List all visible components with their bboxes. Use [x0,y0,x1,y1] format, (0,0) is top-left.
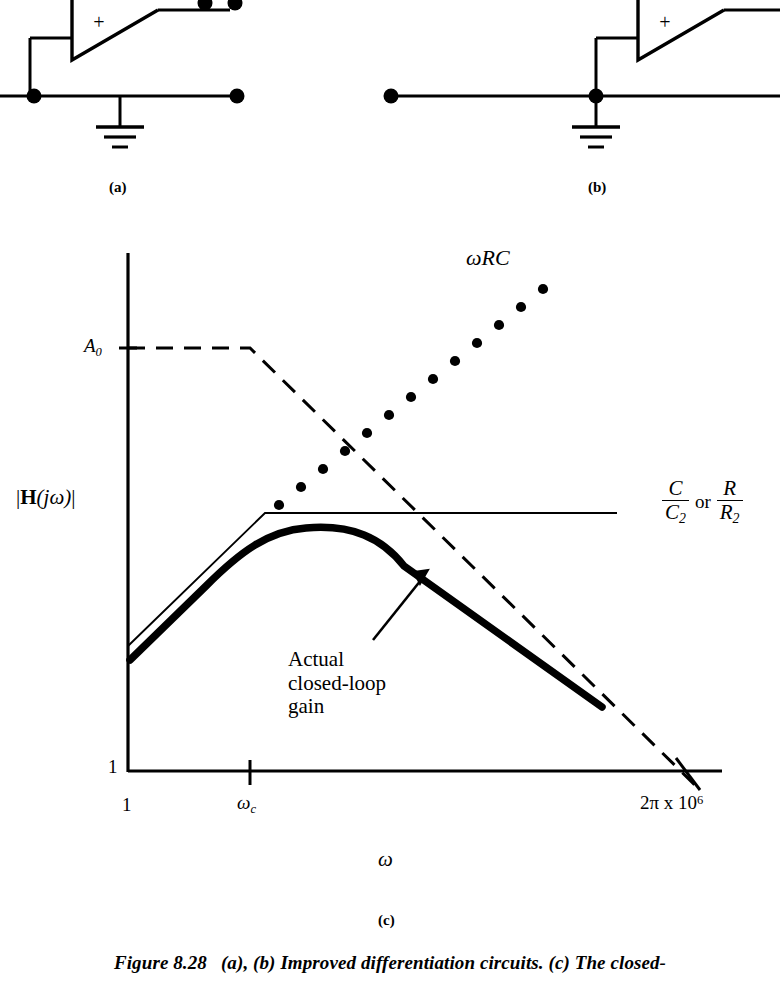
annotation-line-2: closed-loop [288,672,386,696]
fraction-r-over-r2: R R2 [717,478,743,526]
annotation-gain-limit: C C2 or R R2 [662,478,743,526]
x-axis-label: ω [378,849,393,870]
x-tick-label-one: 1 [122,795,132,814]
x-tick-label-omega-c: ωc [237,793,256,815]
series-ideal-asymptote [128,513,617,646]
fraction-c-over-c2: C C2 [662,478,689,526]
figure-stage: + + (a) (b) [0,0,780,982]
panel-letter-c: (c) [378,913,395,928]
annotation-line-3: gain [288,695,386,719]
unity-gain-crossing-mark [676,758,700,790]
annotation-line-1: Actual [288,648,386,672]
or-word: or [689,492,717,511]
annotation-actual-closed-loop-gain: Actual closed-loop gain [288,648,386,719]
actual-gain-leader-arrow [373,570,428,640]
x-tick-label-unity-bandwidth: 2π x 106 [640,793,703,812]
figure-caption: Figure 8.28(a), (b) Improved differentia… [0,952,780,974]
y-tick-label-one: 1 [108,757,118,776]
figure-number: Figure 8.28 [114,952,221,973]
figure-caption-text: (a), (b) Improved differentiation circui… [221,952,666,973]
series-omega-rc [274,284,548,510]
annotation-omega-rc: ωRC [466,247,510,269]
y-axis-label: |H(jω)| [16,487,75,508]
y-tick-label-a0: A0 [84,336,102,358]
plot-axes [119,253,722,785]
